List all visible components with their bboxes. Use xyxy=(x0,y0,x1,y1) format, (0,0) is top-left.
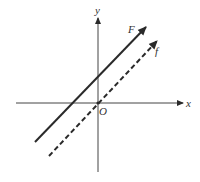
y-axis-label: y xyxy=(94,4,100,16)
x-axis-label: x xyxy=(185,97,191,109)
line-f xyxy=(49,41,157,156)
line-F xyxy=(35,27,146,142)
coordinate-diagram: y x O F f xyxy=(0,0,200,182)
origin-label: O xyxy=(99,105,107,117)
diagram-canvas: y x O F f xyxy=(0,0,200,182)
line-F-label: F xyxy=(127,23,135,35)
line-f-label: f xyxy=(155,45,160,57)
